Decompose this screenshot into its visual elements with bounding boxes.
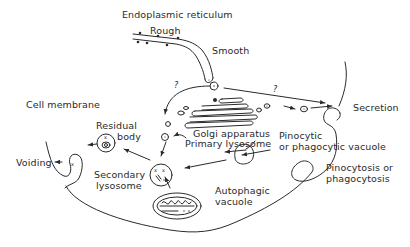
er-vesicle bbox=[210, 82, 218, 90]
label-smooth: Smooth bbox=[212, 45, 249, 56]
endoplasmic-reticulum bbox=[133, 32, 213, 83]
golgi-apparatus bbox=[178, 98, 270, 128]
label-secondary-lysosome-2: lysosome bbox=[96, 180, 142, 191]
label-autophagic-vacuole-1: Autophagic bbox=[215, 185, 270, 196]
label-secretion: Secretion bbox=[353, 102, 399, 113]
label-residual-body-1: Residual bbox=[96, 120, 137, 131]
label-residual-body-2: body bbox=[117, 131, 141, 142]
label-pinocytic-vacuole-1: Pinocytic bbox=[279, 130, 322, 141]
svg-text:x: x bbox=[104, 134, 107, 140]
autophagic-vacuole bbox=[153, 193, 201, 219]
secretory-vesicle bbox=[301, 106, 308, 112]
label-pinocytosis-2: phagocytosis bbox=[326, 173, 390, 184]
svg-text:x: x bbox=[162, 167, 165, 173]
label-question-er-to-lysosome: ? bbox=[174, 80, 178, 91]
label-primary-lysosome: Primary lysosome bbox=[185, 138, 271, 149]
label-secondary-lysosome-1: Secondary bbox=[94, 169, 145, 180]
label-pinocytosis-1: Pinocytosis or bbox=[326, 162, 393, 173]
residual-body: x bbox=[97, 134, 115, 152]
label-endoplasmic-reticulum: Endoplasmic reticulum bbox=[122, 9, 233, 20]
label-rough: Rough bbox=[150, 25, 181, 36]
svg-text:x: x bbox=[71, 161, 74, 167]
label-pinocytic-vacuole-2: or phagocytic vacuole bbox=[279, 141, 386, 152]
svg-text:x: x bbox=[154, 167, 157, 173]
label-cell-membrane: Cell membrane bbox=[26, 99, 100, 110]
label-voiding: Voiding bbox=[16, 157, 52, 168]
primary-lysosome bbox=[162, 122, 171, 141]
secondary-lysosome: x x bbox=[150, 164, 172, 186]
label-autophagic-vacuole-2: vacuole bbox=[215, 196, 253, 207]
label-question-er-to-secretion: ? bbox=[273, 84, 277, 95]
lysosome-diagram: x x x x bbox=[0, 0, 410, 247]
